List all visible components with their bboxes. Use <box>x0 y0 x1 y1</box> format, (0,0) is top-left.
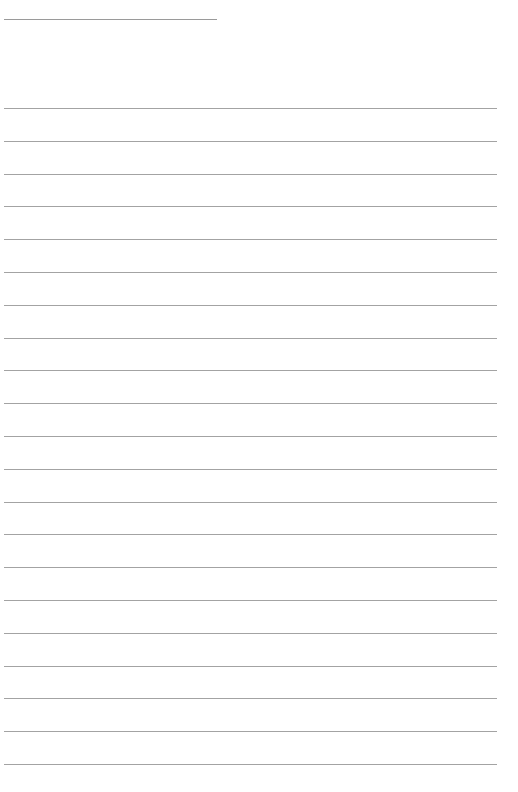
ruled-line <box>4 174 497 175</box>
ruled-line <box>4 305 497 306</box>
ruled-line <box>4 141 497 142</box>
ruled-line <box>4 108 497 109</box>
ruled-line <box>4 272 497 273</box>
ruled-line <box>4 764 497 765</box>
ruled-line <box>4 239 497 240</box>
lined-page <box>0 0 518 792</box>
ruled-line <box>4 338 497 339</box>
ruled-line <box>4 534 497 535</box>
ruled-line <box>4 567 497 568</box>
ruled-line <box>4 436 497 437</box>
ruled-line <box>4 469 497 470</box>
ruled-line <box>4 698 497 699</box>
header-write-line <box>4 19 217 20</box>
ruled-line <box>4 502 497 503</box>
ruled-line <box>4 403 497 404</box>
ruled-line <box>4 370 497 371</box>
ruled-line <box>4 633 497 634</box>
ruled-line <box>4 206 497 207</box>
ruled-line <box>4 731 497 732</box>
ruled-line <box>4 666 497 667</box>
ruled-line <box>4 600 497 601</box>
